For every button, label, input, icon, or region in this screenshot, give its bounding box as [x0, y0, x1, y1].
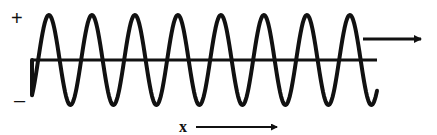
x-axis-label: x [179, 118, 187, 135]
wave-diagram-canvas: + – x [0, 0, 437, 135]
positive-label: + [11, 7, 23, 29]
wave-diagram: + – x [0, 0, 437, 135]
negative-label: – [14, 89, 26, 111]
